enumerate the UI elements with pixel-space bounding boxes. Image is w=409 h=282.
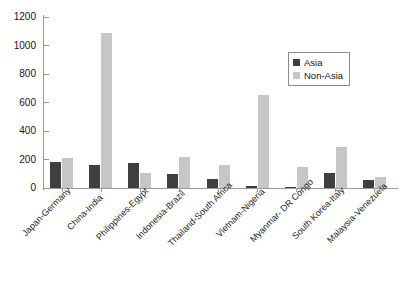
bar-non-asia bbox=[179, 157, 190, 188]
legend-swatch-icon bbox=[293, 72, 300, 79]
legend-item: Asia bbox=[293, 56, 343, 69]
legend-swatch-icon bbox=[293, 59, 300, 66]
bar-asia bbox=[285, 187, 296, 188]
bar-group bbox=[246, 17, 269, 188]
legend-label: Non-Asia bbox=[304, 69, 343, 82]
bar-group bbox=[207, 17, 230, 188]
bar-asia bbox=[128, 163, 139, 188]
x-axis-label: Japan-Germany bbox=[20, 185, 73, 238]
bar-non-asia bbox=[101, 33, 112, 188]
y-tick-label: 800 bbox=[19, 67, 36, 80]
bar-non-asia bbox=[258, 95, 269, 188]
legend-label: Asia bbox=[304, 56, 322, 69]
y-tick-label: 0 bbox=[30, 181, 36, 194]
bar-group bbox=[128, 17, 151, 188]
bar-non-asia bbox=[336, 147, 347, 188]
legend-item: Non-Asia bbox=[293, 69, 343, 82]
bar-group bbox=[167, 17, 190, 188]
bar-group bbox=[324, 17, 347, 188]
x-axis-label: China-India bbox=[65, 192, 105, 232]
bar-asia bbox=[50, 162, 61, 188]
bar-asia bbox=[89, 165, 100, 188]
bar-non-asia bbox=[62, 158, 73, 188]
y-tick-label: 1000 bbox=[14, 39, 36, 52]
bar-group bbox=[285, 17, 308, 188]
chart-legend: AsiaNon-Asia bbox=[288, 52, 350, 86]
y-tick-label: 1200 bbox=[14, 10, 36, 23]
bar-group bbox=[363, 17, 386, 188]
y-tick-label: 200 bbox=[19, 153, 36, 166]
bar-asia bbox=[207, 179, 218, 188]
bar-chart: 120010008006004002000 AsiaNon-Asia Japan… bbox=[0, 0, 409, 282]
y-tick-label: 400 bbox=[19, 124, 36, 137]
bar-group bbox=[89, 17, 112, 188]
bar-asia bbox=[324, 173, 335, 188]
y-tick-label: 600 bbox=[19, 96, 36, 109]
bar-asia bbox=[167, 174, 178, 188]
bar-group bbox=[50, 17, 73, 188]
bar-asia bbox=[246, 186, 257, 188]
x-tick-mark bbox=[101, 188, 102, 192]
bar-asia bbox=[363, 180, 374, 188]
plot-area bbox=[44, 17, 396, 188]
